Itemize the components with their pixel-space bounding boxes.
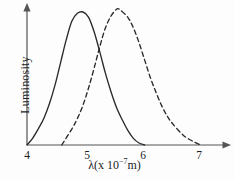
solid-luminosity-curve	[27, 12, 145, 145]
x-axis-title-tail: m)	[128, 158, 141, 172]
luminosity-spectrum-figure: 4 5 6 7 Luminosity λ(x 10−7m)	[0, 0, 235, 180]
x-axis-title-exponent: −7	[119, 157, 128, 166]
x-axis-arrowhead	[223, 142, 232, 149]
y-axis-arrowhead	[23, 3, 30, 12]
dashed-luminosity-curve	[62, 8, 201, 145]
x-axis-title-lambda: λ(x 10	[88, 158, 119, 172]
plot-area: 4 5 6 7	[0, 0, 235, 180]
y-axis-title: Luminosity	[18, 25, 33, 145]
x-axis-title: λ(x 10−7m)	[27, 158, 202, 173]
y-axis-title-wrap: Luminosity	[4, 25, 20, 145]
